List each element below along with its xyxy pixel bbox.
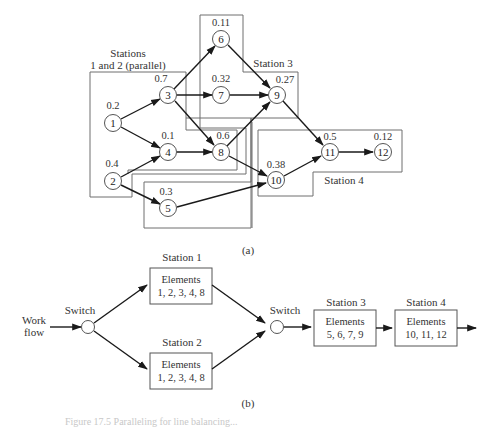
node-3-id: 3 bbox=[165, 89, 171, 101]
node-6-id: 6 bbox=[218, 33, 224, 45]
switch-2-label: Switch bbox=[270, 304, 301, 316]
work-flow-label-line2: flow bbox=[24, 326, 44, 338]
station-2-line2: 1, 2, 3, 4, 8 bbox=[157, 372, 204, 383]
node-4-time: 0.1 bbox=[161, 130, 174, 141]
part-a-precedence-diagram: Stations 1 and 2 (parallel) Station 3 St… bbox=[90, 15, 402, 257]
part-a-caption: (a) bbox=[242, 244, 255, 257]
edge-8-10 bbox=[229, 156, 267, 176]
node-5: 0.3 5 bbox=[159, 186, 176, 217]
node-3: 0.7 3 bbox=[154, 73, 176, 104]
work-flow-label-line1: Work bbox=[22, 314, 47, 326]
node-12-time: 0.12 bbox=[374, 131, 392, 142]
arrow-switch-to-station-2 bbox=[94, 331, 147, 369]
edge-3-8 bbox=[175, 101, 214, 145]
node-9-time: 0.27 bbox=[276, 74, 294, 85]
node-1-time: 0.2 bbox=[106, 100, 119, 111]
station-2-line1: Elements bbox=[161, 359, 200, 370]
node-4-id: 4 bbox=[165, 146, 171, 158]
edge-3-6 bbox=[174, 46, 215, 89]
node-7-time: 0.32 bbox=[212, 73, 230, 84]
node-10-time: 0.38 bbox=[267, 159, 285, 170]
switch-2-circle bbox=[271, 321, 284, 334]
node-10: 0.38 10 bbox=[267, 159, 285, 189]
node-11-id: 11 bbox=[325, 146, 336, 158]
arrow-station-2-to-switch-2 bbox=[212, 331, 265, 369]
station-3-title: Station 3 bbox=[326, 296, 366, 308]
node-9: 0.27 9 bbox=[269, 74, 295, 104]
node-11-time: 0.5 bbox=[323, 131, 336, 142]
node-2-time: 0.4 bbox=[105, 158, 119, 169]
station-3-line1: Elements bbox=[325, 316, 364, 327]
node-2: 0.4 2 bbox=[105, 158, 122, 190]
station-2-title: Station 2 bbox=[162, 336, 201, 348]
switch-1-label: Switch bbox=[65, 304, 96, 316]
node-2-id: 2 bbox=[110, 175, 116, 187]
edge-2-5 bbox=[121, 185, 160, 204]
part-b-caption: (b) bbox=[242, 397, 255, 410]
edge-8-9 bbox=[227, 102, 270, 146]
node-1: 0.2 1 bbox=[105, 100, 122, 132]
part-b-station-layout: Work flow Switch Station 1 Elements 1, 2… bbox=[22, 251, 476, 410]
edge-10-11 bbox=[284, 156, 321, 176]
node-6: 0.11 6 bbox=[212, 17, 230, 48]
station-1-line1: Elements bbox=[161, 274, 200, 285]
figure-caption-partial: Figure 17.5 Paralleling for line balanci… bbox=[65, 416, 237, 427]
node-10-id: 10 bbox=[271, 174, 283, 186]
node-6-time: 0.11 bbox=[212, 17, 230, 28]
node-7: 0.32 7 bbox=[212, 73, 230, 104]
stations-1-2-label-line2: 1 and 2 (parallel) bbox=[90, 59, 166, 72]
station-4-label: Station 4 bbox=[324, 174, 364, 186]
node-1-id: 1 bbox=[110, 117, 116, 129]
node-7-id: 7 bbox=[218, 89, 224, 101]
station-4-line2: 10, 11, 12 bbox=[405, 329, 447, 340]
station-1-line2: 1, 2, 3, 4, 8 bbox=[157, 287, 204, 298]
edge-5-10 bbox=[177, 183, 266, 207]
station-3-label: Station 3 bbox=[253, 57, 293, 69]
node-12-id: 12 bbox=[378, 146, 389, 158]
node-12: 0.12 12 bbox=[374, 131, 392, 161]
precedence-diagram-figure: Stations 1 and 2 (parallel) Station 3 St… bbox=[0, 0, 494, 428]
edge-9-11 bbox=[283, 101, 323, 145]
edge-1-3 bbox=[121, 99, 160, 119]
arrow-station-1-to-switch-2 bbox=[212, 285, 265, 323]
station-4-line1: Elements bbox=[406, 316, 445, 327]
node-5-id: 5 bbox=[165, 202, 171, 214]
stations-1-2-label-line1: Stations bbox=[110, 47, 145, 59]
node-8-id: 8 bbox=[218, 146, 224, 158]
arrow-switch-to-station-1 bbox=[94, 285, 147, 323]
station-4-title: Station 4 bbox=[406, 296, 446, 308]
switch-1-circle bbox=[82, 321, 95, 334]
station-1-title: Station 1 bbox=[162, 251, 201, 263]
station-3-line2: 5, 6, 7, 9 bbox=[327, 329, 364, 340]
node-4: 0.1 4 bbox=[160, 130, 177, 161]
edge-1-4 bbox=[121, 127, 160, 148]
node-5-time: 0.3 bbox=[159, 186, 172, 197]
node-9-id: 9 bbox=[274, 89, 280, 101]
node-11: 0.5 11 bbox=[322, 131, 339, 161]
node-3-time: 0.7 bbox=[154, 73, 167, 84]
node-8-time: 0.6 bbox=[216, 130, 229, 141]
